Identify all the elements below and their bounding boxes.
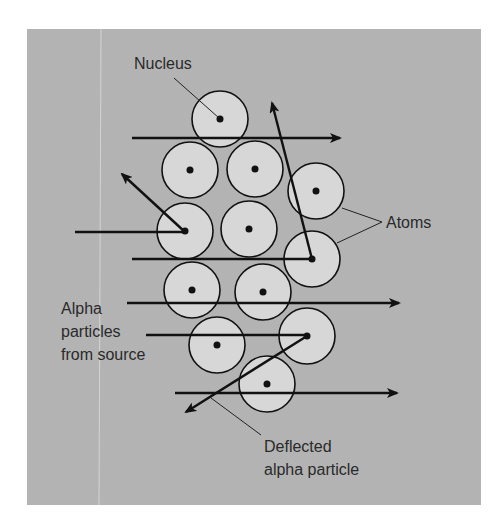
nucleus-label: Nucleus [134, 55, 192, 72]
atom [288, 163, 344, 219]
deflected-line-2: alpha particle [264, 461, 359, 478]
alpha-source-line-3: from source [61, 346, 146, 363]
deflected-line-1: Deflected [264, 438, 332, 455]
atom [235, 264, 291, 320]
atom [189, 317, 245, 373]
atom [227, 141, 283, 197]
alpha-source-line-1: Alpha [61, 300, 102, 317]
rutherford-scattering-diagram: Nucleus Atoms Alpha particles from sourc… [0, 0, 496, 522]
nucleus-dot [260, 289, 267, 296]
nucleus-dot [252, 166, 259, 173]
atom [164, 262, 220, 318]
nucleus-dot [187, 167, 194, 174]
atom [162, 142, 218, 198]
nucleus-dot [189, 287, 196, 294]
nucleus-dot [264, 381, 271, 388]
nucleus-dot [214, 342, 221, 349]
alpha-source-line-2: particles [61, 323, 121, 340]
atom [239, 356, 295, 412]
atoms-label: Atoms [386, 214, 431, 231]
nucleus-dot [313, 188, 320, 195]
atom [221, 201, 277, 257]
nucleus-dot [246, 226, 253, 233]
